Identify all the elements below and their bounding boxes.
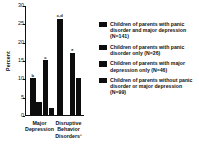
legend-swatch-icon bbox=[99, 61, 107, 66]
x-axis-labels: Major Depression Disruptive Behavior Dis… bbox=[25, 120, 84, 158]
legend-item-neither-disorder: Children of parents without panic disord… bbox=[99, 77, 199, 96]
y-tickmark-20 bbox=[23, 43, 25, 44]
y-tickmark-15 bbox=[23, 61, 25, 62]
bar-annotation-g0-series0: b bbox=[32, 74, 35, 79]
legend-item-label: Children of parents with panic disorder … bbox=[110, 21, 199, 40]
legend-item-major-depression-only: Children of parents with major depressio… bbox=[99, 60, 199, 72]
legend-item-panic-and-major-depression: Children of parents with panic disorder … bbox=[99, 21, 199, 40]
bar-chart-figure: Percent 30 25 20 15 10 5 0 b bbox=[0, 0, 199, 160]
x-label-line: Depression bbox=[25, 126, 54, 132]
axes: b c c,d e bbox=[25, 6, 84, 116]
legend-swatch-icon bbox=[99, 78, 107, 83]
plot-area: Percent 30 25 20 15 10 5 0 b bbox=[0, 0, 95, 160]
legend: Children of parents with panic disorder … bbox=[99, 21, 199, 100]
legend-swatch-icon bbox=[99, 45, 107, 50]
x-axis-label-disruptive-behavior-disorders: Disruptive Behavior Disorders¹ bbox=[53, 120, 84, 139]
legend-item-label: Children of parents with major depressio… bbox=[110, 60, 199, 72]
y-tickmark-30 bbox=[23, 6, 25, 7]
legend-swatch-icon bbox=[99, 22, 107, 27]
bar-g1-series2: e bbox=[70, 53, 76, 115]
x-axis-label-major-depression: Major Depression bbox=[25, 120, 54, 133]
y-axis-title: Percent bbox=[5, 37, 11, 85]
x-axis-line bbox=[25, 115, 84, 116]
x-label-line: Behavior bbox=[53, 126, 84, 132]
legend-item-panic-only: Children of parents with panic disorder … bbox=[99, 44, 199, 56]
y-tickmark-10 bbox=[23, 79, 25, 80]
legend-item-label: Children of parents with panic disorder … bbox=[110, 44, 199, 56]
bar-g0-series0: b bbox=[30, 78, 36, 114]
x-label-line: Disorders¹ bbox=[53, 133, 84, 139]
bar-g0-series1 bbox=[36, 102, 42, 115]
bars-container: b c c,d e bbox=[26, 6, 84, 115]
legend-item-label: Children of parents without panic disord… bbox=[110, 77, 199, 96]
bar-group-major-depression: b c bbox=[30, 6, 56, 115]
bar-annotation-g1-series2: e bbox=[71, 48, 73, 53]
bar-g1-series0: c,d bbox=[57, 19, 63, 115]
bar-group-disruptive-behavior-disorders: c,d e bbox=[57, 6, 83, 115]
bar-annotation-g0-series2: c bbox=[44, 56, 46, 61]
y-tickmark-25 bbox=[23, 24, 25, 25]
bar-g0-series3 bbox=[49, 108, 55, 114]
y-tickmark-0 bbox=[23, 116, 25, 117]
y-tickmark-5 bbox=[23, 98, 25, 99]
bar-g0-series2: c bbox=[43, 60, 49, 114]
bar-annotation-g1-series0: c,d bbox=[57, 14, 63, 19]
bar-g1-series3 bbox=[76, 78, 82, 114]
